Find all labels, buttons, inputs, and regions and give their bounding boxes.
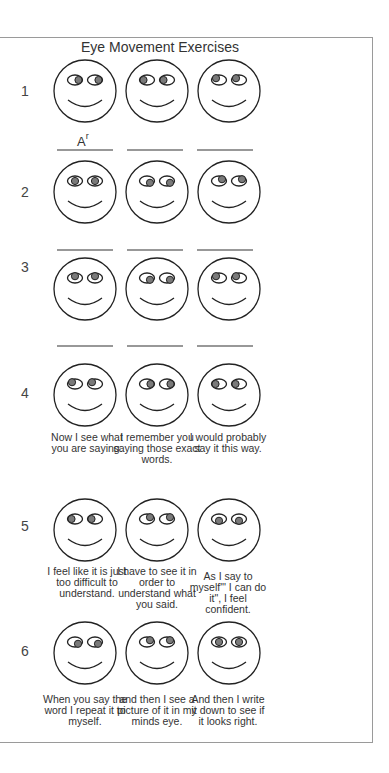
eye-icon: [212, 273, 227, 283]
eye-icon: [88, 379, 103, 389]
eye-icon: [68, 637, 83, 647]
smiley-face-icon: [54, 364, 116, 426]
eye-icon: [160, 273, 175, 283]
eye-icon: [68, 514, 83, 524]
smiley-face-icon: [126, 258, 188, 320]
eye-icon: [68, 379, 83, 389]
eye-icon: [140, 637, 155, 647]
faces-diagram: [0, 0, 389, 773]
eye-icon: [212, 637, 227, 647]
smiley-face-icon: [198, 364, 260, 426]
eye-icon: [232, 379, 247, 389]
eye-icon: [232, 176, 247, 186]
caption-4c: I would probably say it this way.: [183, 432, 273, 454]
smiley-face-icon: [126, 622, 188, 684]
eye-icon: [68, 273, 83, 283]
eye-icon: [212, 379, 227, 389]
caption-6c: And then I write it down to see if it lo…: [190, 694, 266, 727]
smiley-face-icon: [126, 499, 188, 561]
eye-icon: [88, 75, 103, 85]
eye-icon: [88, 514, 103, 524]
smiley-face-icon: [198, 499, 260, 561]
smiley-face-icon: [198, 622, 260, 684]
smiley-face-icon: [126, 60, 188, 122]
eye-icon: [160, 637, 175, 647]
smiley-face-icon: [198, 258, 260, 320]
eye-icon: [140, 514, 155, 524]
eye-icon: [160, 514, 175, 524]
smiley-face-icon: [126, 364, 188, 426]
eye-icon: [88, 273, 103, 283]
smiley-face-icon: [126, 161, 188, 223]
eye-icon: [232, 75, 247, 85]
eye-icon: [160, 379, 175, 389]
eye-icon: [232, 514, 247, 524]
eye-icon: [232, 273, 247, 283]
eye-icon: [160, 176, 175, 186]
eye-icon: [232, 637, 247, 647]
eye-icon: [140, 176, 155, 186]
smiley-face-icon: [54, 161, 116, 223]
eye-icon: [160, 75, 175, 85]
eye-icon: [68, 75, 83, 85]
eye-icon: [212, 514, 227, 524]
eye-icon: [140, 75, 155, 85]
eye-icon: [212, 176, 227, 186]
eye-icon: [68, 176, 83, 186]
smiley-face-icon: [54, 499, 116, 561]
smiley-face-icon: [54, 60, 116, 122]
caption-6b: and then I see a picture of it in my min…: [114, 694, 200, 727]
caption-5c: As I say to myself"' I can do it", I fee…: [188, 571, 268, 615]
eye-icon: [88, 176, 103, 186]
eye-icon: [88, 637, 103, 647]
smiley-face-icon: [54, 622, 116, 684]
smiley-face-icon: [198, 60, 260, 122]
eye-icon: [212, 75, 227, 85]
smiley-face-icon: [54, 258, 116, 320]
smiley-face-icon: [198, 161, 260, 223]
eye-icon: [140, 273, 155, 283]
eye-icon: [140, 379, 155, 389]
